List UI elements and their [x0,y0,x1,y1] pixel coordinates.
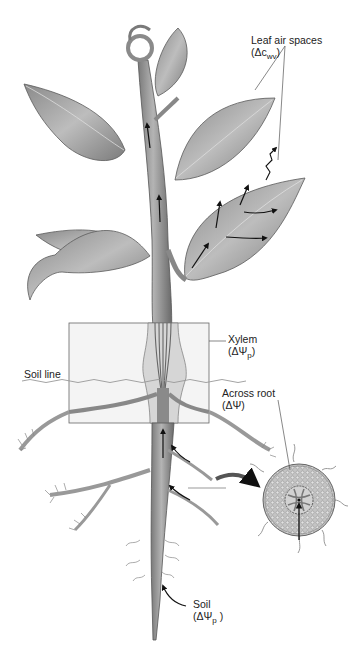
leaf-top-small [155,28,187,96]
label-soil-name: Soil [193,598,211,610]
label-leaf-air-spaces-name: Leaf air spaces [251,34,322,46]
root-hairs [18,429,276,581]
label-soil-symbol: (ΔΨp ) [193,610,223,627]
label-xylem-name: Xylem [228,333,257,345]
label-across-root-symbol: (ΔΨ) [222,399,275,411]
root-cross-section [250,444,348,553]
label-across-root-name: Across root [222,387,275,399]
root-system [18,412,276,640]
label-leaf-air-spaces: Leaf air spaces (Δcwv) [251,34,322,63]
label-xylem: Xylem (ΔΨp) [228,333,257,362]
soil-pointer-arrow [163,586,186,606]
label-soil-line: Soil line [24,368,61,380]
label-leaf-air-spaces-symbol: (Δcwv) [251,46,322,63]
plant-water-transport-diagram [0,0,364,653]
label-across-root: Across root (ΔΨ) [222,387,275,411]
label-soil: Soil (ΔΨp ) [193,598,223,627]
label-xylem-symbol: (ΔΨp) [228,345,257,362]
xylem-inset-box [69,323,209,423]
section-pointer-arrow [216,475,256,484]
leaf-upper-left [24,84,125,161]
leaf-upper-right [175,98,275,180]
apical-bud [128,36,152,60]
